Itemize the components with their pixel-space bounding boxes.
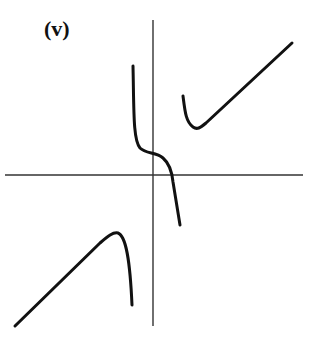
- curve-middle-s-branch: [133, 66, 180, 225]
- curve-lower-left-branch: [15, 233, 132, 326]
- curve-upper-right-branch: [183, 43, 292, 128]
- graph-sketch: [0, 0, 317, 338]
